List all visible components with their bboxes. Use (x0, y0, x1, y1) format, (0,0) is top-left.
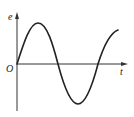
sine-graph: e O t (0, 0, 134, 117)
x-axis-label: t (120, 66, 123, 77)
origin-label: O (6, 63, 13, 74)
y-axis-arrow-icon (15, 12, 19, 19)
y-axis-label: e (8, 11, 13, 22)
